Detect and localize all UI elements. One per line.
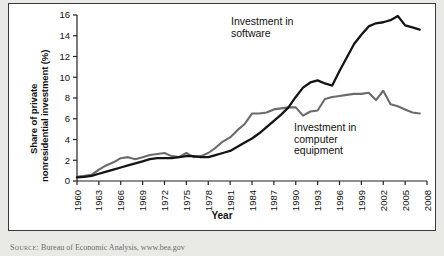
- source-note: Source: Bureau of Economic Analysis, www…: [10, 243, 440, 253]
- y-tick-label: 12: [59, 51, 70, 62]
- x-tick-label: 1999: [356, 190, 367, 211]
- y-tick-label: 10: [59, 72, 70, 83]
- chart-frame: 0246810121416196019631966196919721975197…: [8, 3, 436, 231]
- y-tick-label: 4: [65, 134, 70, 145]
- x-tick-label: 1978: [203, 190, 214, 211]
- y-tick-label: 8: [65, 92, 70, 103]
- series-annotation-software: Investment in software: [231, 16, 293, 39]
- series-line-software: [77, 16, 420, 177]
- x-tick-label: 1963: [93, 190, 104, 211]
- x-tick-label: 1987: [268, 190, 279, 211]
- x-tick-label: 1969: [137, 190, 148, 211]
- line-chart: 0246810121416196019631966196919721975197…: [9, 4, 435, 230]
- x-tick-label: 1975: [181, 190, 192, 211]
- plot-area: 0246810121416196019631966196919721975197…: [9, 4, 435, 230]
- y-axis-label-line1: Share of private: [28, 84, 39, 154]
- x-tick-label: 1981: [225, 190, 236, 211]
- x-tick-label: 2002: [378, 190, 389, 211]
- y-tick-label: 16: [59, 9, 70, 20]
- y-axis-label: Share of private nonresidential investme…: [15, 4, 43, 204]
- y-tick-label: 14: [59, 30, 70, 41]
- y-axis-label-line2: nonresidential investment (%): [39, 50, 50, 182]
- y-tick-label: 0: [65, 175, 70, 186]
- x-tick-label: 1972: [159, 190, 170, 211]
- source-prefix: Source:: [10, 243, 39, 252]
- y-tick-label: 2: [65, 155, 70, 166]
- x-tick-label: 1996: [334, 190, 345, 211]
- y-tick-label: 6: [65, 113, 70, 124]
- series-annotation-computer-equipment: Investment in computer equipment: [294, 122, 356, 157]
- x-tick-label: 1984: [247, 190, 258, 211]
- series-line-computer-equipment: [77, 91, 420, 177]
- x-tick-label: 1993: [312, 190, 323, 211]
- figure-container: 0246810121416196019631966196919721975197…: [0, 0, 444, 256]
- x-tick-label: 1990: [290, 190, 301, 211]
- x-axis-label: Year: [9, 210, 435, 221]
- x-tick-label: 2005: [400, 190, 411, 211]
- source-text: Bureau of Economic Analysis, www.bea.gov: [41, 243, 185, 252]
- x-tick-label: 1960: [72, 190, 83, 211]
- x-tick-label: 2008: [422, 190, 433, 211]
- x-tick-label: 1966: [115, 190, 126, 211]
